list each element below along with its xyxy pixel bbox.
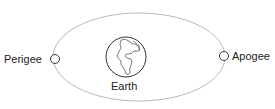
perigee-label: Perigee (4, 53, 42, 65)
apogee-label: Apogee (232, 50, 270, 62)
earth-label: Earth (111, 80, 137, 92)
perigee-marker (51, 55, 60, 64)
apogee-marker (220, 52, 229, 61)
earth-globe-icon (106, 37, 146, 77)
